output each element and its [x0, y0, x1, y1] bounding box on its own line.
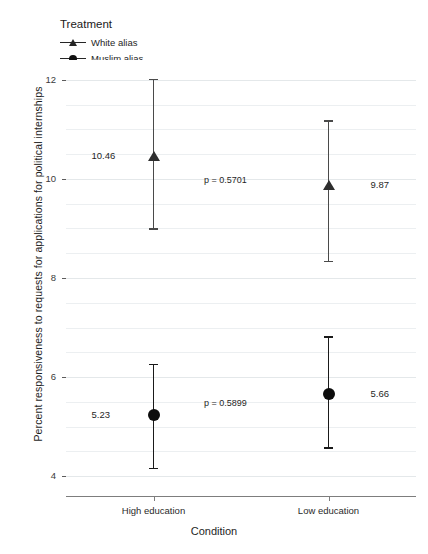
gridline-minor	[66, 352, 416, 353]
legend: Treatment White alias Muslim alias	[60, 18, 143, 66]
p-value-annotation: p = 0.5701	[204, 175, 247, 185]
triangle-marker-icon	[60, 36, 86, 49]
y-axis-tick-mark	[62, 278, 66, 279]
x-axis-tick-label: High education	[84, 505, 224, 516]
y-axis-tick-mark	[62, 80, 66, 81]
gridline-minor	[66, 427, 416, 428]
error-bar-cap	[149, 364, 158, 366]
gridline-minor	[66, 154, 416, 155]
x-axis-tick-label: Low education	[259, 505, 399, 516]
data-value-label: 5.23	[92, 409, 111, 420]
gridline-minor	[66, 328, 416, 329]
legend-item-label: White alias	[91, 37, 137, 48]
y-axis-tick-label: 10	[16, 173, 56, 184]
y-axis-tick-label: 8	[16, 272, 56, 283]
gridline-minor	[66, 105, 416, 106]
data-point-triangle[interactable]	[148, 151, 160, 161]
y-axis-tick-mark	[62, 476, 66, 477]
gridline-major	[66, 377, 416, 378]
data-point-circle[interactable]	[148, 409, 160, 421]
gridline-major	[66, 278, 416, 279]
gridline-minor	[66, 253, 416, 254]
gridline-major	[66, 80, 416, 81]
legend-title: Treatment	[60, 18, 143, 30]
error-bar-cap	[149, 468, 158, 470]
p-value-annotation: p = 0.5899	[204, 398, 247, 408]
gridline-minor	[66, 303, 416, 304]
plot-panel	[66, 60, 416, 496]
x-axis-tick-mark	[154, 496, 155, 501]
error-bar-cap	[324, 336, 333, 338]
chart-container: Treatment White alias Muslim alias Perce…	[0, 0, 428, 554]
gridline-major	[66, 476, 416, 477]
data-point-circle[interactable]	[323, 388, 335, 400]
error-bar-cap	[149, 228, 158, 230]
gridline-minor	[66, 129, 416, 130]
y-axis-title: Percent responsiveness to requests for a…	[32, 44, 44, 484]
error-bar-cap	[149, 79, 158, 81]
y-axis-tick-label: 4	[16, 470, 56, 481]
data-value-label: 5.66	[371, 388, 390, 399]
error-bar-cap	[324, 261, 333, 263]
gridline-minor	[66, 228, 416, 229]
x-axis-line	[66, 496, 416, 497]
data-point-triangle[interactable]	[323, 180, 335, 190]
x-axis-tick-mark	[329, 496, 330, 501]
y-axis-tick-label: 6	[16, 371, 56, 382]
error-bar-cap	[324, 447, 333, 449]
y-axis-tick-label: 12	[16, 74, 56, 85]
gridline-minor	[66, 451, 416, 452]
y-axis-tick-mark	[62, 377, 66, 378]
data-value-label: 10.46	[92, 150, 116, 161]
y-axis-tick-mark	[62, 179, 66, 180]
data-value-label: 9.87	[371, 179, 390, 190]
x-axis-title: Condition	[0, 525, 428, 537]
error-bar-cap	[324, 120, 333, 122]
legend-item-white-alias[interactable]: White alias	[60, 35, 143, 50]
gridline-minor	[66, 204, 416, 205]
